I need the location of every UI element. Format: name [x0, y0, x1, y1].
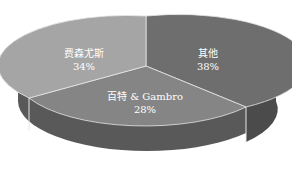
- slice-label-other: 其他: [198, 47, 218, 59]
- slice-pct-baxter-gambro: 28%: [134, 104, 156, 115]
- slice-pct-fresenius: 34%: [73, 61, 95, 72]
- slice-pct-other: 38%: [197, 61, 219, 72]
- slice-label-fresenius: 费森尤斯: [64, 47, 104, 59]
- pie-chart: 其他 38% 百特 & Gambro 28% 费森尤斯 34%: [0, 0, 292, 181]
- slice-label-baxter-gambro: 百特 & Gambro: [107, 91, 183, 102]
